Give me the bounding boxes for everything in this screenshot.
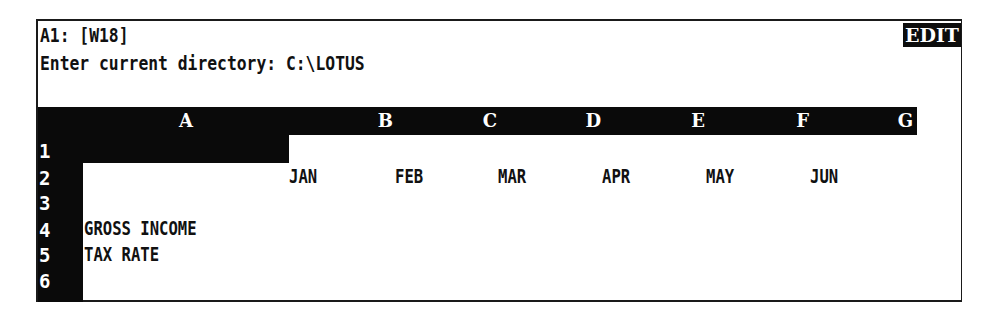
column-header-a[interactable]: A [83,107,289,135]
column-header-bar: A B C D E F G [38,107,917,135]
cell-c2[interactable]: FEB [395,165,423,187]
cell-d2[interactable]: MAR [498,165,526,187]
cell-b2[interactable]: JAN [289,165,317,187]
cell-e2[interactable]: APR [602,165,630,187]
row-number-5[interactable]: 5 [39,245,50,265]
cell-f2[interactable]: MAY [706,165,734,187]
cell-g2[interactable]: JUN [810,165,838,187]
row-number-1[interactable]: 1 [39,141,50,161]
mode-indicator: EDIT [903,23,961,47]
row-number-3[interactable]: 3 [39,193,50,213]
column-header-e[interactable]: E [601,107,705,135]
column-header-d[interactable]: D [497,107,601,135]
column-header-b[interactable]: B [289,107,393,135]
row-number-column: 1 2 3 4 5 6 [38,135,83,302]
cell-a5[interactable]: TAX RATE [84,243,159,265]
lotus-screen: A1: [W18] Enter current directory: C:\LO… [36,19,962,302]
row-number-6[interactable]: 6 [39,271,50,291]
column-header-f[interactable]: F [705,107,809,135]
column-header-g[interactable]: G [809,107,913,135]
row-number-2[interactable]: 2 [39,168,50,188]
column-header-c[interactable]: C [393,107,497,135]
cell-pointer-a1[interactable] [83,135,289,163]
cell-a4[interactable]: GROSS INCOME [84,217,197,239]
row-number-4[interactable]: 4 [39,220,50,240]
prompt-line[interactable]: Enter current directory: C:\LOTUS [40,52,365,74]
cell-status-line: A1: [W18] [40,24,129,46]
